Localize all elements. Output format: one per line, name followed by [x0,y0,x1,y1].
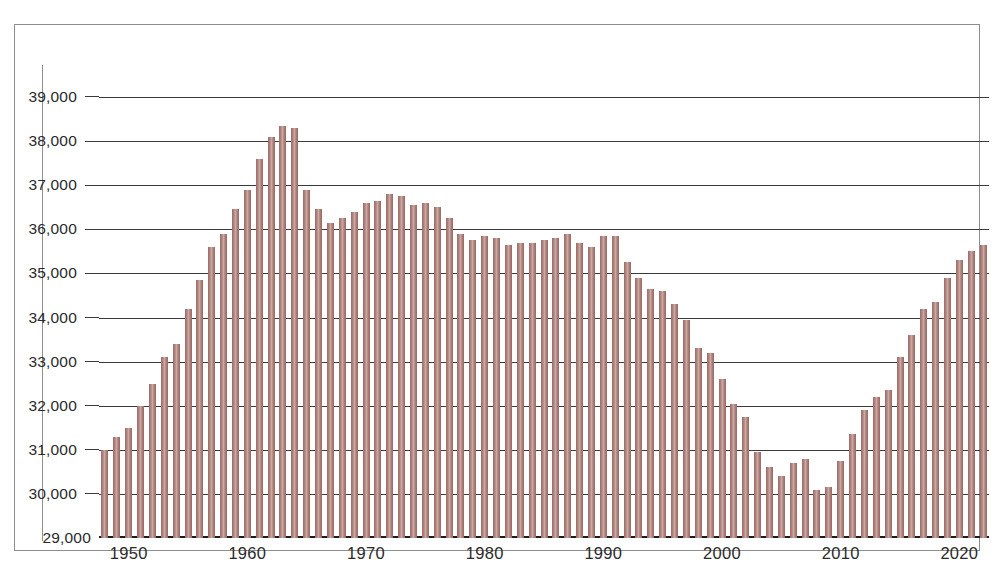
y-tick-value: 32,000 [28,397,85,415]
bar-1967 [327,223,334,538]
bar-1950 [125,428,132,538]
bar-1971 [374,201,381,538]
y-axis-tick-labels: 29,00030,00031,00032,00033,00034,00035,0… [15,25,99,550]
x-tick-label-1980: 1980 [466,544,504,563]
bar-1954 [173,344,180,538]
x-axis-tick-labels: 19501960197019801990200020102020 [99,544,989,572]
bar-1970 [363,203,370,538]
bar-2002 [742,417,749,538]
bar-1985 [541,240,548,538]
bar-2008 [813,490,820,539]
y-tick-label-33000: 33,000 [28,353,99,371]
y-tick-value: 39,000 [28,88,85,106]
bar-2010 [837,461,844,538]
bar-2003 [754,452,761,538]
y-tick-value: 30,000 [28,485,85,503]
y-tick-label-30000: 30,000 [28,485,99,503]
y-tick-label-38000: 38,000 [28,132,99,150]
bar-1963 [279,126,286,538]
bar-1975 [422,203,429,538]
bar-2014 [885,390,892,538]
x-tick-label-2010: 2010 [822,544,860,563]
bar-2020 [956,260,963,538]
y-tick-dash [85,96,99,97]
bar-2006 [790,463,797,538]
y-tick-dash [85,141,99,142]
y-tick-dash [85,273,99,274]
bar-2013 [873,397,880,538]
bar-1969 [351,212,358,538]
y-tick-label-37000: 37,000 [28,176,99,194]
bar-2018 [932,302,939,538]
bar-1986 [552,238,559,538]
bar-1955 [185,309,192,538]
bar-chart-figure: 29,00030,00031,00032,00033,00034,00035,0… [0,0,1003,577]
bar-1964 [291,128,298,538]
bar-1991 [612,236,619,538]
y-tick-label-36000: 36,000 [28,220,99,238]
bar-1957 [208,247,215,538]
bar-1960 [244,190,251,538]
bar-1994 [647,289,654,538]
chart-frame: 29,00030,00031,00032,00033,00034,00035,0… [14,24,980,551]
bar-1996 [671,304,678,538]
bar-1959 [232,209,239,538]
bar-1992 [624,262,631,538]
bar-2000 [719,379,726,538]
bar-1982 [505,245,512,538]
bar-1965 [303,190,310,538]
bar-1972 [386,194,393,538]
bar-1995 [659,291,666,538]
y-tick-dash [85,405,99,406]
bar-2019 [944,278,951,538]
bar-1976 [434,207,441,538]
bar-1952 [149,384,156,538]
y-tick-value: 35,000 [28,264,85,282]
bar-2004 [766,467,773,538]
bar-1948 [101,450,108,538]
bar-1977 [446,218,453,538]
bar-1980 [481,236,488,538]
x-tick-label-2000: 2000 [703,544,741,563]
y-tick-dash [85,185,99,186]
y-tick-value: 31,000 [28,441,85,459]
bar-1981 [493,238,500,538]
bar-1956 [196,280,203,538]
y-tick-label-29000: 29,000 [42,529,99,547]
bar-2017 [920,309,927,538]
x-tick-label-1950: 1950 [110,544,148,563]
y-tick-value: 36,000 [28,220,85,238]
bar-2011 [849,434,856,538]
bar-1990 [600,236,607,538]
y-tick-value: 38,000 [28,132,85,150]
bar-1978 [457,234,464,538]
x-tick-label-1970: 1970 [347,544,385,563]
bar-1974 [410,205,417,538]
y-tick-value: 37,000 [28,176,85,194]
y-tick-value: 34,000 [28,309,85,327]
bar-2015 [897,357,904,538]
bar-2012 [861,410,868,538]
bar-1989 [588,247,595,538]
bar-1999 [707,353,714,538]
y-tick-dash [85,229,99,230]
bar-2001 [730,404,737,539]
bar-1983 [517,243,524,538]
bar-1987 [564,234,571,538]
x-tick-label-1990: 1990 [584,544,622,563]
bar-1993 [635,278,642,538]
y-tick-label-35000: 35,000 [28,264,99,282]
bar-1949 [113,437,120,538]
y-tick-value: 29,000 [42,529,99,547]
y-tick-label-39000: 39,000 [28,88,99,106]
bar-1984 [529,243,536,538]
bar-1953 [161,357,168,538]
y-tick-dash [85,493,99,494]
bar-1968 [339,218,346,538]
bar-2021 [968,251,975,538]
y-tick-value: 33,000 [28,353,85,371]
y-tick-label-32000: 32,000 [28,397,99,415]
bar-1973 [398,196,405,538]
bar-1962 [268,137,275,538]
bar-1966 [315,209,322,538]
